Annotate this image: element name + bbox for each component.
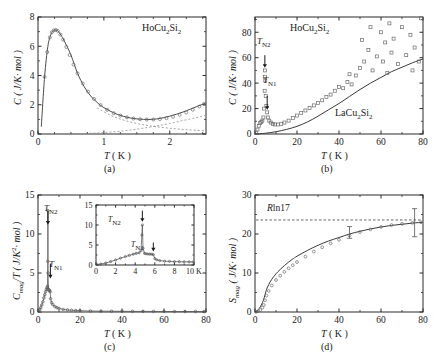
svg-text:6: 6	[153, 267, 157, 276]
svg-text:2: 2	[167, 137, 172, 147]
svg-text:1: 1	[102, 137, 107, 147]
panel-a: 01202468 HoCu2Si2 T ( K ) C ( J/K· mol )…	[0, 0, 217, 178]
svg-text:80: 80	[242, 28, 252, 38]
panel-d: 0204060800102030 Rln17 T ( K ) Smag ( J/…	[217, 178, 434, 357]
svg-text:10: 10	[25, 229, 35, 239]
svg-text:15: 15	[85, 201, 93, 210]
panel-b: 020406080020406080 HoCu2Si2 LaCu2Si2 TN2…	[217, 0, 434, 178]
svg-text:20: 20	[292, 137, 302, 147]
svg-text:4: 4	[133, 267, 137, 276]
panel-c-yaxis-label: Cmag/T ( J/K2· mol )	[10, 222, 25, 300]
svg-text:80: 80	[418, 137, 428, 147]
svg-text:6: 6	[30, 42, 35, 52]
panel-b-compound-label: HoCu2Si2	[290, 22, 329, 36]
svg-text:5: 5	[89, 241, 93, 250]
svg-text:10: 10	[85, 221, 93, 230]
svg-text:15: 15	[25, 190, 35, 200]
svg-text:60: 60	[159, 315, 169, 325]
panel-c-inset-tn2-annotation: TN2	[108, 215, 121, 227]
svg-text:60: 60	[376, 315, 386, 325]
svg-text:10: 10	[242, 268, 252, 278]
panel-a-yaxis-label: C ( J/K· mol )	[12, 50, 23, 105]
svg-text:10 K: 10 K	[186, 267, 202, 276]
svg-text:80: 80	[201, 315, 211, 325]
panel-d-yaxis-label: Smag ( J/K· mol )	[227, 238, 241, 303]
svg-text:20: 20	[242, 104, 252, 114]
svg-text:2: 2	[30, 100, 35, 110]
svg-text:5: 5	[30, 268, 35, 278]
svg-text:0: 0	[253, 315, 258, 325]
svg-text:8: 8	[30, 12, 35, 22]
panel-b-xaxis-label: T ( K )	[321, 150, 348, 161]
svg-text:0: 0	[247, 129, 252, 139]
svg-text:2: 2	[114, 267, 118, 276]
svg-text:0: 0	[30, 129, 35, 139]
panel-b-tn1-annotation: TN1	[263, 75, 277, 88]
panel-c-tn2-annotation: TN2	[44, 203, 58, 216]
svg-text:40: 40	[117, 315, 127, 325]
svg-text:60: 60	[242, 53, 252, 63]
panel-b-yaxis-label: C ( J/K· mol )	[227, 50, 238, 105]
svg-text:20: 20	[75, 315, 85, 325]
panel-b-tn2-annotation: TN2	[257, 36, 271, 49]
svg-text:20: 20	[292, 315, 302, 325]
panel-b-letter: (b)	[321, 163, 333, 174]
panel-a-xaxis-label: T ( K )	[104, 150, 131, 161]
panel-a-compound-label: HoCu2Si2	[142, 22, 181, 36]
svg-text:0: 0	[94, 267, 98, 276]
panel-c-tn1-annotation: TN1	[49, 259, 63, 272]
panel-b-reference-label: LaCu2Si2	[335, 107, 373, 121]
svg-text:20: 20	[242, 229, 252, 239]
figure-four-panel: 01202468 HoCu2Si2 T ( K ) C ( J/K· mol )…	[0, 0, 434, 357]
panel-d-letter: (d)	[321, 341, 333, 352]
svg-text:0: 0	[247, 307, 252, 317]
panel-d-entropy-limit-label: Rln17	[267, 203, 290, 213]
svg-text:40: 40	[334, 315, 344, 325]
panel-d-xaxis-label: T ( K )	[321, 328, 348, 339]
panel-a-letter: (a)	[104, 163, 115, 174]
svg-text:60: 60	[376, 137, 386, 147]
svg-text:0: 0	[89, 261, 93, 270]
svg-text:8: 8	[172, 267, 176, 276]
svg-text:80: 80	[418, 315, 428, 325]
panel-c: 0204060800510150246810 K051015 TN2 TN1 T…	[0, 178, 217, 357]
svg-text:40: 40	[334, 137, 344, 147]
panel-c-letter: (c)	[104, 341, 115, 352]
svg-text:0: 0	[253, 137, 258, 147]
svg-text:30: 30	[242, 190, 252, 200]
svg-text:0: 0	[36, 315, 41, 325]
svg-text:4: 4	[30, 71, 35, 81]
svg-text:0: 0	[36, 137, 41, 147]
svg-text:40: 40	[242, 79, 252, 89]
panel-c-xaxis-label: T ( K )	[104, 328, 131, 339]
panel-c-inset-tn1-annotation: TN1	[131, 240, 144, 252]
svg-text:0: 0	[30, 307, 35, 317]
